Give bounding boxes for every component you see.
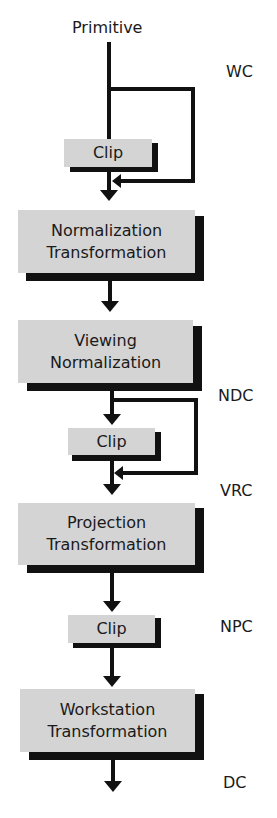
stage-clip-2: Clip	[68, 428, 155, 455]
arrow-down-icon	[103, 676, 121, 687]
bypass-line	[110, 398, 198, 402]
bypass-line	[194, 398, 198, 475]
bypass-line	[122, 471, 198, 475]
box-shadow	[29, 752, 204, 760]
wc-label: WC	[226, 62, 253, 81]
bypass-line	[191, 87, 195, 183]
stage-clip-3: Clip	[68, 615, 155, 643]
stage-normalization-transformation: Normalization Transformation	[18, 210, 195, 273]
arrow-down-icon	[100, 190, 118, 201]
stage-workstation-transformation: Workstation Transformation	[20, 689, 195, 752]
arrow-down-icon	[101, 301, 119, 312]
arrow-down-icon	[104, 781, 122, 792]
box-shadow	[195, 694, 204, 760]
stage-label: Transformation	[46, 242, 166, 264]
stage-viewing-normalization: Viewing Normalization	[18, 320, 193, 383]
box-shadow	[27, 383, 202, 391]
stage-label: Transformation	[46, 534, 166, 556]
stage-label: Projection	[67, 512, 146, 534]
box-shadow	[72, 455, 161, 461]
dc-label: DC	[223, 773, 247, 792]
box-shadow	[193, 326, 202, 391]
flow-line	[108, 281, 112, 303]
box-shadow	[195, 508, 204, 573]
flow-line	[107, 172, 111, 192]
stage-label: Transformation	[47, 721, 167, 743]
arrow-left-icon	[112, 174, 121, 188]
arrow-down-icon	[103, 601, 121, 612]
flow-line	[111, 760, 115, 782]
arrow-down-icon	[103, 414, 121, 425]
arrow-left-icon	[114, 466, 123, 480]
stage-label: Viewing	[74, 330, 137, 352]
stage-projection-transformation: Projection Transformation	[18, 503, 195, 565]
stage-label: Clip	[96, 618, 126, 640]
primitive-label: Primitive	[72, 18, 142, 37]
flow-line	[110, 461, 114, 485]
flow-line	[110, 573, 114, 603]
ndc-label: NDC	[218, 386, 253, 405]
stage-label: Normalization	[51, 220, 162, 242]
stage-label: Normalization	[50, 352, 161, 374]
box-shadow	[26, 273, 204, 281]
flow-line	[110, 648, 114, 678]
stage-label: Clip	[93, 142, 123, 164]
bypass-line	[120, 179, 195, 183]
flow-line	[107, 42, 111, 142]
stage-label: Workstation	[60, 699, 156, 721]
npc-label: NPC	[220, 617, 253, 636]
bypass-line	[107, 87, 195, 91]
stage-clip-1: Clip	[64, 139, 152, 167]
box-shadow	[27, 565, 204, 573]
flow-line	[110, 391, 114, 415]
box-shadow	[195, 216, 204, 281]
stage-label: Clip	[96, 431, 126, 453]
arrow-down-icon	[103, 484, 121, 495]
vrc-label: VRC	[220, 481, 252, 500]
box-shadow	[73, 643, 161, 648]
